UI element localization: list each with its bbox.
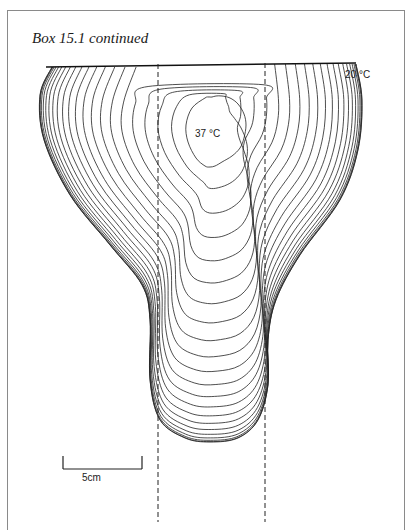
surface-temperature-label: 20 °C	[345, 69, 370, 80]
isotherm-line	[172, 93, 248, 188]
isotherm-line	[40, 64, 361, 440]
isotherm-line	[75, 64, 325, 372]
isotherm-line	[63, 64, 339, 397]
isotherm-line	[40, 64, 362, 442]
isotherm-line	[100, 64, 299, 323]
isotherm-line	[43, 64, 358, 434]
isotherm-line	[110, 64, 289, 304]
surface-line	[46, 63, 356, 67]
core-temperature-label: 37 °C	[195, 128, 220, 139]
isotherm-line	[69, 64, 333, 385]
isotherm-line	[53, 64, 349, 416]
isotherm-line	[83, 64, 318, 357]
isotherm-line	[133, 84, 273, 261]
isotherm-line	[121, 64, 279, 283]
scale-bar	[63, 456, 142, 469]
isotherm-line	[158, 90, 249, 213]
scale-bar-label: 5cm	[82, 472, 101, 483]
isotherm-line	[41, 64, 360, 438]
isotherm-line	[39, 64, 362, 442]
isotherm-contours	[39, 64, 362, 442]
